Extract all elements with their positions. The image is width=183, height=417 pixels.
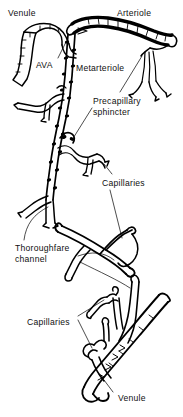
- venule-bottom-vessel: [82, 294, 170, 402]
- label-ava: AVA: [36, 60, 53, 70]
- label-venule-bottom: Venule: [118, 393, 146, 403]
- capillary-branch-mid-left: [18, 196, 58, 228]
- label-capillaries-middle: Capillaries: [102, 178, 145, 188]
- arteriole-vessel: [67, 17, 177, 56]
- label-metarteriole: Metarteriole: [76, 63, 124, 73]
- venule-top-vessel: [13, 23, 69, 86]
- leader-line-precapillary-sphincter: [72, 108, 92, 140]
- leader-line-capillaries-lower-a: [78, 300, 104, 316]
- label-capillaries-lower: Capillaries: [27, 317, 70, 327]
- label-arteriole: Arteriole: [117, 8, 151, 18]
- label-thoroughfare-channel: Thoroughfare channel: [15, 243, 70, 264]
- microcirculation-diagram: Venule Arteriole AVA Metarteriole Precap…: [0, 0, 183, 417]
- capillary-network-upper: [129, 51, 171, 101]
- leader-line-capillaries-middle-a: [104, 164, 112, 174]
- capillary-branch-sphincter: [58, 146, 109, 176]
- leader-line-thoroughfare-a: [24, 207, 48, 240]
- label-precapillary-sphincter: Precapillary sphincter: [93, 96, 141, 117]
- leader-line-capillaries-lower-b: [78, 320, 92, 348]
- leader-lines: [24, 42, 142, 392]
- leader-line-capillaries-middle-b: [110, 190, 122, 238]
- leader-line-precapillary-sphincter-upper: [120, 56, 142, 92]
- label-venule-top: Venule: [8, 8, 36, 18]
- precapillary-sphincter: [60, 133, 75, 143]
- capillary-branch-upper-left: [14, 86, 66, 122]
- leader-line-venule-bottom: [104, 380, 113, 392]
- metarteriole-vessel: [46, 34, 76, 200]
